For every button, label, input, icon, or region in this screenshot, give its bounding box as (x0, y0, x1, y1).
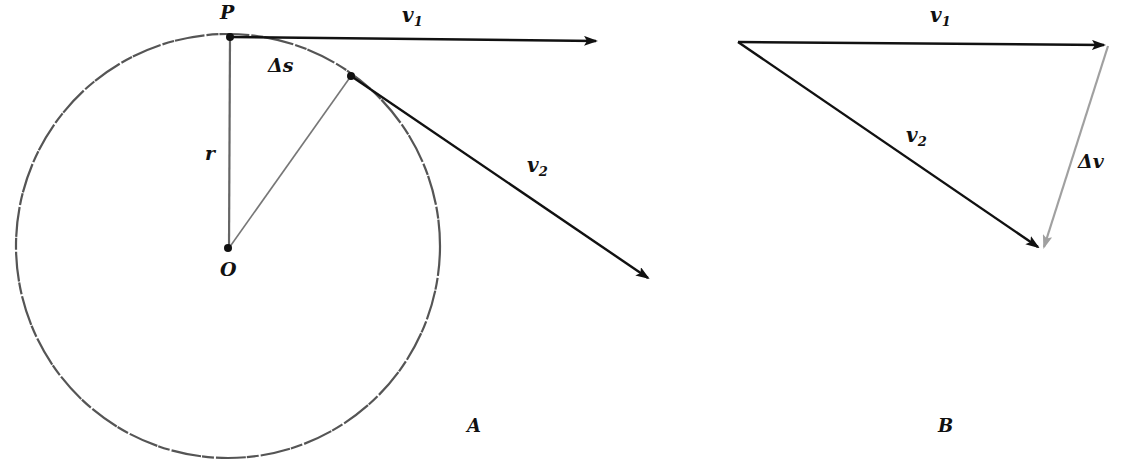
delta-v-label: Δv (1077, 150, 1105, 172)
panel-b: v1 v2 Δv B (738, 3, 1108, 436)
panel-a-label: A (465, 415, 481, 436)
vector-v2-arrow-b (738, 42, 1038, 247)
arc-delta-s-label: Δs (267, 54, 294, 76)
v1-label-b: v1 (930, 3, 951, 29)
center-o-dot (224, 244, 232, 252)
velocity-v1-arrow (230, 37, 596, 41)
delta-v-arrow (1044, 46, 1108, 247)
radius-line-o-second (229, 76, 351, 248)
circular-motion-diagram: P Δs r O v1 v2 A v1 v2 Δv B (0, 0, 1121, 461)
v2-label-a: v2 (527, 153, 548, 179)
panel-b-label: B (937, 415, 953, 436)
point-p-label: P (219, 1, 235, 23)
second-point-dot (347, 72, 355, 80)
radius-line-op (229, 37, 230, 248)
center-o-label: O (220, 258, 237, 280)
point-p-dot (226, 33, 234, 41)
panel-a: P Δs r O v1 v2 A (16, 1, 648, 458)
vector-v1-arrow-b (738, 42, 1104, 45)
v2-label-b: v2 (906, 123, 927, 149)
radius-r-label: r (205, 142, 217, 164)
velocity-v2-arrow (351, 76, 648, 278)
v1-label-a: v1 (402, 3, 423, 29)
